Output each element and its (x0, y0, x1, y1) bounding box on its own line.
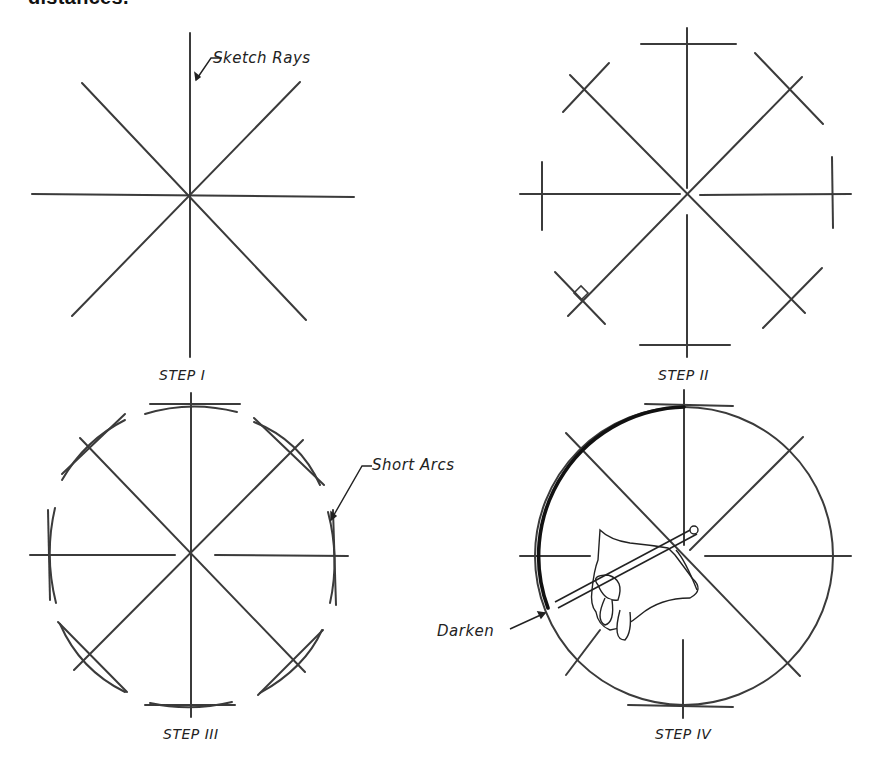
step-4-label: STEP IV (655, 726, 711, 742)
step-1-label: STEP I (159, 367, 205, 383)
short-arcs-leader-arrow (331, 466, 372, 520)
short-arcs-label: Short Arcs (372, 456, 455, 474)
darken-leader-arrow (510, 612, 545, 629)
step-4-completed-circle (520, 390, 851, 718)
step-2-rays-with-tick-marks (520, 28, 851, 357)
darken-label: Darken (437, 622, 494, 640)
hand-holding-pencil-icon (555, 526, 698, 640)
step-1-sketch-rays (32, 33, 354, 357)
step-2-label: STEP II (658, 367, 709, 383)
sketch-rays-label: Sketch Rays (213, 49, 311, 67)
step-3-label: STEP III (163, 726, 219, 742)
circle-sketching-diagram (0, 0, 889, 770)
step-3-short-arcs (30, 393, 348, 717)
